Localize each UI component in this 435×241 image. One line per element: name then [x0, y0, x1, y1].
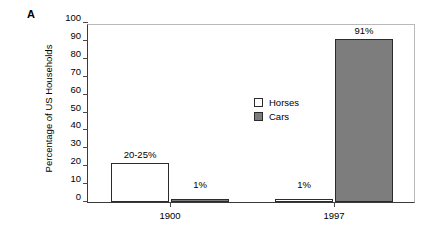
value-label-cars-1997: 91% [354, 25, 373, 36]
x-tick-label: 1900 [159, 210, 180, 221]
legend-swatch-horses [254, 98, 263, 107]
bar-cars-1997 [335, 39, 393, 202]
y-tick-label: 60 [70, 85, 81, 95]
value-label-cars-1900: 1% [193, 179, 207, 190]
y-tick-label: 0 [76, 192, 81, 202]
bar-horses-1997 [275, 199, 333, 202]
legend-item-cars: Cars [254, 109, 299, 123]
legend-swatch-cars [254, 112, 263, 121]
legend-label-cars: Cars [269, 111, 289, 122]
legend-label-horses: Horses [269, 97, 299, 108]
x-tick [334, 202, 335, 207]
value-label-horses-1900: 20-25% [124, 149, 157, 160]
panel-letter: A [27, 8, 35, 20]
y-tick [83, 165, 88, 166]
figure-panel-a: A Percentage of US Households 0102030405… [0, 0, 435, 241]
x-tick-label: 1997 [323, 210, 344, 221]
legend-item-horses: Horses [254, 95, 299, 109]
bar-cars-1900 [171, 199, 229, 202]
y-tick-label: 70 [70, 67, 81, 77]
y-axis-title: Percentage of US Households [43, 14, 54, 204]
y-tick [83, 201, 88, 202]
y-tick [83, 76, 88, 77]
plot-area: 0102030405060708090100 19001997 20-25%1%… [87, 24, 415, 203]
y-tick-label: 40 [70, 120, 81, 130]
y-tick [83, 129, 88, 130]
y-tick [83, 94, 88, 95]
y-tick [83, 112, 88, 113]
bar-horses-1900 [111, 163, 169, 202]
y-tick-label: 90 [70, 31, 81, 41]
y-tick [83, 22, 88, 23]
y-tick [83, 183, 88, 184]
y-tick [83, 58, 88, 59]
y-tick [83, 147, 88, 148]
y-tick [83, 40, 88, 41]
y-tick-label: 50 [70, 103, 81, 113]
legend: Horses Cars [254, 95, 299, 123]
y-tick-label: 100 [65, 13, 81, 23]
y-tick-label: 10 [70, 174, 81, 184]
x-tick [170, 202, 171, 207]
y-tick-label: 30 [70, 138, 81, 148]
value-label-horses-1997: 1% [297, 179, 311, 190]
y-tick-label: 80 [70, 49, 81, 59]
y-tick-label: 20 [70, 156, 81, 166]
